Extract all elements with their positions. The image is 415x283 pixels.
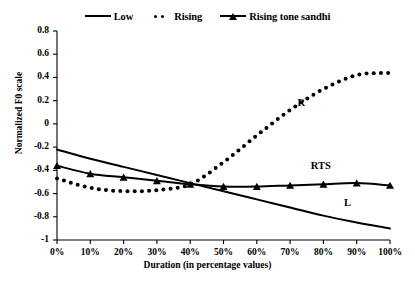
series-annotation-l: L [344,197,351,208]
data-series-group [53,71,394,229]
series-rts [53,162,394,190]
plot-area [0,0,415,283]
series-annotation-rts: RTS [311,160,331,171]
f0-contour-chart: Low Rising Rising tone sandhi Normalized… [0,0,415,283]
axis-lines [53,31,390,244]
series-annotation-r: R [297,97,305,108]
